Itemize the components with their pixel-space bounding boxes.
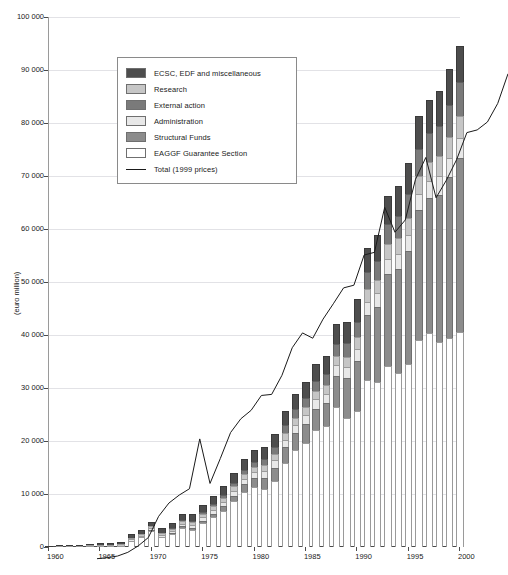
y-axis-tick-mark [44,494,48,495]
legend-item-label: Research [154,85,187,94]
legend-swatch-icon [126,132,146,142]
x-axis-tick-mark [356,547,357,551]
y-axis-tick-mark [44,123,48,124]
y-axis-tick-label: 80 000 [0,119,44,127]
y-axis-tick-mark [44,388,48,389]
y-axis-tick-label: 60 000 [0,225,44,233]
legend-item: Administration [126,113,288,129]
legend-item: EAGGF Guarantee Section [126,145,288,161]
legend-line-icon [126,164,146,174]
x-axis-tick-label: 1960 [47,553,64,561]
x-axis-tick-label: 1975 [201,553,218,561]
legend-item-label: EAGGF Guarantee Section [154,149,247,158]
y-axis-tick-mark [44,17,48,18]
x-axis-tick-mark [151,547,152,551]
y-axis-tick-label: 100 000 [0,13,44,21]
x-axis-tick-label: 1965 [98,553,115,561]
legend-swatch-icon [126,84,146,94]
y-axis-tick-label: 20 000 [0,437,44,445]
x-axis-tick-label: 2000 [458,553,475,561]
legend-swatch-icon [126,68,146,78]
x-axis-tick-label: 1980 [253,553,270,561]
y-axis-tick-mark [44,176,48,177]
legend-item: External action [126,97,288,113]
y-axis-tick-label: 40 000 [0,331,44,339]
y-axis-tick-mark [44,441,48,442]
x-axis-tick-label: 1990 [355,553,372,561]
y-axis-tick-mark [44,335,48,336]
legend-item-label: Structural Funds [154,133,211,142]
legend-item: ECSC, EDF and miscellaneous [126,65,288,81]
y-axis-tick-label: 90 000 [0,66,44,74]
x-axis-tick-mark [99,547,100,551]
legend-swatch-icon [126,116,146,126]
legend-swatch-icon [126,100,146,110]
y-axis-tick-label: 50 000 [0,278,44,286]
legend-item-label: ECSC, EDF and miscellaneous [154,69,261,78]
x-axis-tick-mark [408,547,409,551]
x-axis-tick-mark [202,547,203,551]
y-axis-tick-label: 30 000 [0,384,44,392]
legend-item-label: External action [154,101,205,110]
y-axis-tick-mark [44,282,48,283]
y-axis-tick-mark [44,229,48,230]
y-axis-tick-label: 70 000 [0,172,44,180]
chart-legend: ECSC, EDF and miscellaneousResearchExter… [117,57,297,184]
y-axis-tick-label: 0 [0,543,44,551]
legend-item: Research [126,81,288,97]
x-axis-tick-mark [48,547,49,551]
y-axis-title: (euro million) [12,272,21,315]
x-axis-tick-mark [254,547,255,551]
x-axis-tick-label: 1970 [150,553,167,561]
legend-item-label: Total (1999 prices) [154,165,218,174]
x-axis-tick-label: 1995 [407,553,424,561]
legend-item-label: Administration [154,117,203,126]
y-axis-tick-mark [44,70,48,71]
x-axis-tick-label: 1985 [304,553,321,561]
x-axis-tick-mark [459,547,460,551]
legend-item: Structural Funds [126,129,288,145]
x-axis-tick-mark [305,547,306,551]
legend-item: Total (1999 prices) [126,161,288,177]
legend-swatch-icon [126,148,146,158]
y-axis-tick-label: 10 000 [0,490,44,498]
